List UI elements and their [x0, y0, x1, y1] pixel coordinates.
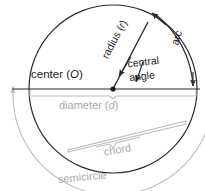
label-radius-text: radius ( [99, 23, 126, 60]
label-arc: arc [168, 29, 184, 47]
label-radius: radius (r) [99, 18, 129, 61]
center-point-dot [110, 86, 115, 91]
label-chord: chord [103, 141, 132, 158]
label-diameter-text: diameter ( [59, 99, 109, 111]
label-center-text: center ( [31, 68, 70, 80]
label-center: center (O) [31, 68, 83, 80]
label-central-angle-line2: angle [129, 68, 156, 83]
label-center-symbol: O [70, 68, 79, 80]
label-central-angle: central angle [127, 54, 161, 84]
label-semicircle: semicircle [57, 169, 107, 185]
label-center-close: ) [79, 68, 83, 80]
label-central-angle-line1: central [127, 54, 160, 70]
label-diameter: diameter (d) [59, 99, 118, 111]
label-diameter-close: ) [115, 99, 119, 111]
arc-arrow-top [152, 13, 166, 25]
circle-diagram-canvas: center (O) radius (r) central angle arc … [0, 0, 205, 191]
circle-parts-diagram: center (O) radius (r) central angle arc … [0, 0, 205, 191]
